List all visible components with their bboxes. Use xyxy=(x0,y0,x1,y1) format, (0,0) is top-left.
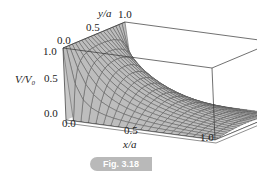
z-tick-0.5: 0.5 xyxy=(44,73,58,84)
x-tick-0: 0.0 xyxy=(62,118,76,129)
x-tick-0.5: 0.5 xyxy=(124,125,138,136)
y-axis-label: y/a xyxy=(98,8,111,19)
z-tick-0: 0.0 xyxy=(44,108,58,119)
x-axis-label: x/a xyxy=(123,139,136,150)
figure-caption-badge: Fig. 3.18 xyxy=(90,157,152,171)
potential-surface xyxy=(63,22,257,140)
y-tick-0.5: 0.5 xyxy=(86,22,100,33)
y-tick-1: 1.0 xyxy=(118,9,132,20)
x-tick-1: 1.0 xyxy=(200,132,214,143)
z-axis-label: V/V₀ xyxy=(15,74,35,85)
y-tick-0: 0.0 xyxy=(57,35,71,46)
z-tick-1: 1.0 xyxy=(43,46,57,57)
